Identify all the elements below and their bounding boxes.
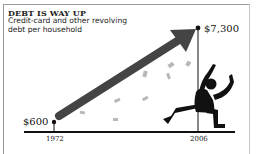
start-year-label: 1972 bbox=[46, 135, 64, 143]
start-value-label: $600 bbox=[23, 116, 48, 127]
trend-arrow bbox=[59, 38, 182, 116]
end-point bbox=[196, 26, 201, 31]
end-value-label: $7,300 bbox=[204, 23, 239, 34]
start-point bbox=[52, 120, 56, 124]
end-year-label: 2006 bbox=[190, 135, 208, 143]
